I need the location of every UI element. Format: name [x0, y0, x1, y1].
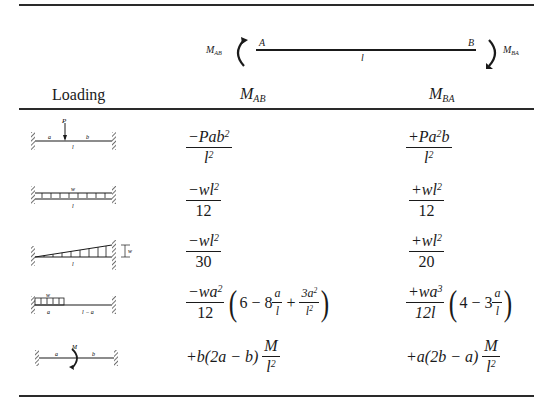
- mab-formula-applied-moment: +b(2a − b) Ml2: [186, 337, 280, 376]
- mba-moment-label: MBA: [503, 44, 519, 55]
- counterclockwise-moment-arrow-icon: [230, 36, 250, 70]
- column-header-loading: Loading: [52, 86, 105, 104]
- mab-moment-label: MAB: [206, 44, 222, 55]
- mab-formula-point-load: −Pab2l2: [186, 128, 232, 167]
- mab-formula-partial-uniform-load: −wa212 ( 6 − 8 al + 3a2l2 ): [186, 283, 331, 322]
- loading-diagram-uniform-load: w l: [28, 180, 123, 216]
- header-rule: [19, 108, 534, 110]
- span-line: [256, 49, 476, 51]
- svg-text:b: b: [86, 134, 89, 140]
- svg-text:a: a: [48, 134, 51, 140]
- bottom-rule: [19, 395, 534, 397]
- loading-diagram-partial-uniform-load: w a l − a: [28, 290, 123, 326]
- svg-text:l − a: l − a: [82, 309, 94, 315]
- end-a-label: A: [259, 37, 265, 48]
- column-header-mab: MAB: [240, 85, 265, 103]
- svg-text:l: l: [72, 144, 74, 150]
- mba-formula-point-load: +Pa2bl2: [406, 128, 452, 167]
- top-rule: [19, 4, 534, 6]
- mba-formula-uniform-load: +wl212: [409, 181, 444, 220]
- svg-text:w: w: [46, 292, 50, 298]
- mba-formula-partial-uniform-load: +wa312l ( 4 − 3 al ): [406, 283, 514, 322]
- svg-text:w: w: [71, 186, 75, 192]
- svg-text:l: l: [72, 261, 74, 267]
- span-length-label: l: [361, 52, 364, 63]
- mba-formula-applied-moment: +a(2b − a) Ml2: [406, 337, 500, 376]
- svg-text:l: l: [72, 203, 74, 209]
- svg-text:w: w: [128, 248, 132, 254]
- loading-diagram-triangular-load: w l: [28, 238, 138, 278]
- svg-text:M: M: [71, 344, 78, 350]
- loading-diagram-applied-moment: M a b: [28, 340, 123, 376]
- mab-formula-triangular-load: −wl230: [186, 232, 221, 271]
- loading-diagram-point-load: P a b l: [28, 118, 123, 158]
- clockwise-moment-arrow-icon: [484, 36, 504, 70]
- sign-convention-diagram: MAB A B l MBA: [200, 30, 520, 70]
- mab-formula-uniform-load: −wl212: [186, 181, 221, 220]
- svg-text:P: P: [61, 118, 67, 125]
- mba-formula-triangular-load: +wl220: [409, 232, 444, 271]
- svg-text:b: b: [92, 351, 95, 357]
- end-b-label: B: [468, 37, 474, 48]
- svg-text:a: a: [55, 351, 58, 357]
- svg-text:a: a: [47, 309, 50, 315]
- column-header-mba: MBA: [429, 85, 454, 103]
